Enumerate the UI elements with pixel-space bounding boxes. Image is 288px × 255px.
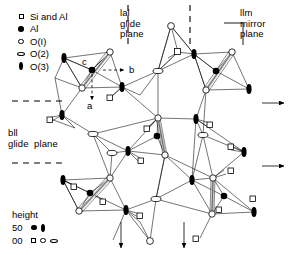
atom-o2 bbox=[151, 196, 161, 201]
a-glide-plane-label: lalglideplane bbox=[120, 8, 144, 40]
atom-o2 bbox=[198, 132, 208, 137]
atom-o1 bbox=[210, 175, 216, 181]
m-mirror-line3: plane bbox=[240, 28, 264, 39]
atom-o2 bbox=[107, 150, 117, 155]
legend-label: Al bbox=[30, 23, 38, 34]
filled-circle-icon bbox=[31, 225, 37, 231]
atom-tsite bbox=[137, 213, 142, 218]
height-key-row: 00 bbox=[12, 235, 58, 246]
height-key-title: height bbox=[12, 209, 58, 220]
atom-o3 bbox=[246, 84, 251, 94]
atom-o1 bbox=[168, 23, 175, 30]
a-glide-line3: plane bbox=[120, 28, 144, 39]
b-glide-plane-label: bllglide plane bbox=[8, 128, 58, 149]
filled-circle-icon bbox=[12, 26, 30, 32]
atom-o3 bbox=[123, 205, 128, 215]
atom-tsite bbox=[100, 199, 105, 204]
atom-o2 bbox=[88, 131, 98, 136]
atom-o1 bbox=[79, 85, 85, 91]
atom-o3 bbox=[193, 114, 198, 124]
axis-label-b: b bbox=[129, 64, 134, 75]
height-key-row: 50 bbox=[12, 222, 58, 233]
atom-o1 bbox=[162, 152, 168, 158]
atom-tsite bbox=[193, 236, 198, 241]
atom-o1 bbox=[203, 87, 209, 93]
atom-o3 bbox=[125, 146, 130, 156]
atom-o3 bbox=[191, 49, 196, 59]
atom-o1 bbox=[155, 115, 161, 121]
atom-al bbox=[89, 67, 96, 74]
open-circle-icon bbox=[40, 238, 46, 244]
atom-o1 bbox=[107, 49, 113, 55]
legend-item: O(I) bbox=[12, 35, 68, 48]
atom-al bbox=[154, 133, 161, 140]
atom-o3 bbox=[60, 175, 65, 185]
translation-arrows-bottom bbox=[121, 222, 184, 248]
m-mirror-plane-label: llmmirrorplane bbox=[240, 8, 265, 40]
atom-tsite bbox=[175, 49, 181, 55]
open-ellipse-icon bbox=[50, 239, 58, 243]
legend-item: Al bbox=[12, 23, 68, 36]
translation-arrows-right bbox=[262, 103, 284, 166]
filled-ellipse-vertical-icon bbox=[41, 224, 45, 232]
legend-label: O(2) bbox=[30, 48, 49, 59]
atom-tsite bbox=[71, 184, 76, 189]
atom-tsite bbox=[107, 95, 112, 100]
m-mirror-line2: mirror bbox=[240, 18, 265, 29]
atom-tsite bbox=[250, 196, 255, 201]
atom-al bbox=[213, 68, 220, 75]
open-circle-icon bbox=[12, 39, 30, 45]
atom-tsite bbox=[138, 158, 143, 163]
open-square-icon bbox=[31, 238, 36, 243]
atom-o3 bbox=[119, 82, 124, 92]
legend-item: O(2) bbox=[12, 48, 68, 61]
legend-item: Si and Al bbox=[12, 10, 68, 23]
b-glide-line1: bll bbox=[8, 127, 18, 138]
atom-o1 bbox=[229, 49, 235, 55]
legend-label: O(3) bbox=[30, 61, 49, 72]
legend-label: Si and Al bbox=[30, 11, 68, 22]
atom-o2 bbox=[153, 68, 163, 73]
atom-o3 bbox=[189, 175, 194, 185]
axis-label-a: a bbox=[87, 100, 92, 111]
height-key-value: 00 bbox=[12, 235, 31, 246]
a-glide-line2: glide bbox=[120, 18, 141, 29]
atom-o1 bbox=[76, 208, 82, 214]
atom-o3 bbox=[251, 207, 256, 217]
filled-ellipse-vertical-icon bbox=[12, 62, 30, 70]
atom-o1 bbox=[209, 211, 215, 217]
a-glide-line1: lal bbox=[120, 7, 130, 18]
legend-label: O(I) bbox=[30, 36, 46, 47]
atom-o3 bbox=[241, 147, 246, 157]
atom-tsite bbox=[228, 144, 233, 149]
atom-tsite bbox=[47, 117, 52, 122]
open-ellipse-icon bbox=[12, 52, 30, 56]
atom-tsite bbox=[228, 168, 233, 173]
open-square-icon bbox=[12, 14, 30, 19]
atom-o1 bbox=[107, 175, 113, 181]
atom-tsite bbox=[207, 122, 212, 127]
species-legend: Si and Al Al O(I) O(2) O(3) bbox=[12, 10, 68, 73]
atom-al bbox=[221, 193, 228, 200]
height-key-value: 50 bbox=[12, 222, 31, 233]
atom-al bbox=[87, 190, 94, 197]
m-mirror-line1: llm bbox=[240, 7, 252, 18]
b-glide-line2: glide plane bbox=[8, 138, 58, 149]
legend-item: O(3) bbox=[12, 60, 68, 73]
figure-canvas: Si and Al Al O(I) O(2) O(3) height 50 bbox=[0, 0, 288, 255]
atom-tsite bbox=[144, 126, 149, 131]
height-key: height 50 00 bbox=[12, 209, 58, 246]
atom-tsite bbox=[216, 207, 221, 212]
axis-label-c: c bbox=[82, 56, 87, 67]
atom-o3 bbox=[59, 110, 64, 120]
atom-o1 bbox=[147, 238, 154, 245]
